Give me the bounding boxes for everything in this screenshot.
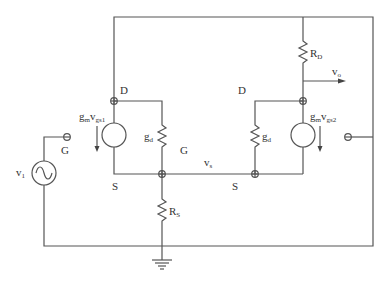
label-vo: vo bbox=[332, 65, 342, 79]
label-left-source: S bbox=[112, 180, 118, 192]
label-left-gd: gd bbox=[144, 130, 154, 144]
vo-arrow bbox=[303, 79, 346, 84]
right-gd-resistor bbox=[251, 101, 303, 174]
label-right-source: S bbox=[232, 180, 238, 192]
label-vi: v1 bbox=[16, 166, 26, 180]
ground-icon bbox=[152, 260, 172, 269]
label-gm-vgs2: gmvgs2 bbox=[310, 110, 337, 124]
right-current-source bbox=[291, 101, 323, 174]
rs-resistor bbox=[158, 174, 166, 260]
top-wire bbox=[44, 17, 373, 246]
ac-voltage-source-icon bbox=[32, 137, 64, 185]
label-gm-vgs1: gmvgs1 bbox=[79, 110, 106, 124]
label-rd: RD bbox=[310, 47, 322, 61]
left-gd-resistor bbox=[114, 101, 166, 174]
label-right-drain: D bbox=[238, 84, 246, 96]
circuit-diagram: D D S S G G gmvgs1 gmvgs2 gd gd RD RS vs… bbox=[0, 0, 386, 284]
label-left-drain: D bbox=[120, 84, 128, 96]
label-left-gate: G bbox=[61, 144, 69, 156]
label-middle-gate: G bbox=[180, 144, 188, 156]
label-rs: RS bbox=[169, 205, 180, 219]
label-right-gd: gd bbox=[262, 130, 272, 144]
label-vs: vs bbox=[204, 156, 213, 170]
rd-resistor bbox=[299, 17, 307, 101]
